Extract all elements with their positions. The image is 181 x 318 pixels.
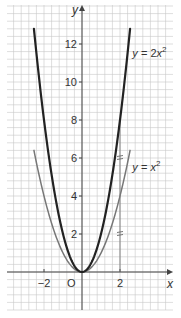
curve-label: y = 2x2 <box>131 45 167 59</box>
equal-tick-mark <box>117 232 123 233</box>
curve-label: y = x2 <box>131 159 161 173</box>
x-axis-label: x <box>166 277 174 291</box>
x-tick-label: 2 <box>117 277 123 289</box>
y-tick-label: 4 <box>71 190 77 202</box>
y-tick-label: 12 <box>65 38 77 50</box>
x-axis-arrow-icon <box>167 269 173 275</box>
origin-label: O <box>67 277 76 289</box>
y-tick-label: 6 <box>71 152 77 164</box>
y-tick-label: 8 <box>71 114 77 126</box>
curve-labels: y = 2x2y = x2 <box>131 45 167 173</box>
equal-tick-mark <box>117 235 123 236</box>
x-tick-label: −2 <box>38 277 51 289</box>
y-tick-label: 2 <box>71 228 77 240</box>
y-axis-label: y <box>71 3 79 17</box>
y-tick-label: 10 <box>65 76 77 88</box>
equal-tick-mark <box>117 156 123 157</box>
equal-tick-mark <box>117 159 123 160</box>
parabola-chart: x y O −2224681012 y = 2x2y = x2 <box>0 0 181 318</box>
